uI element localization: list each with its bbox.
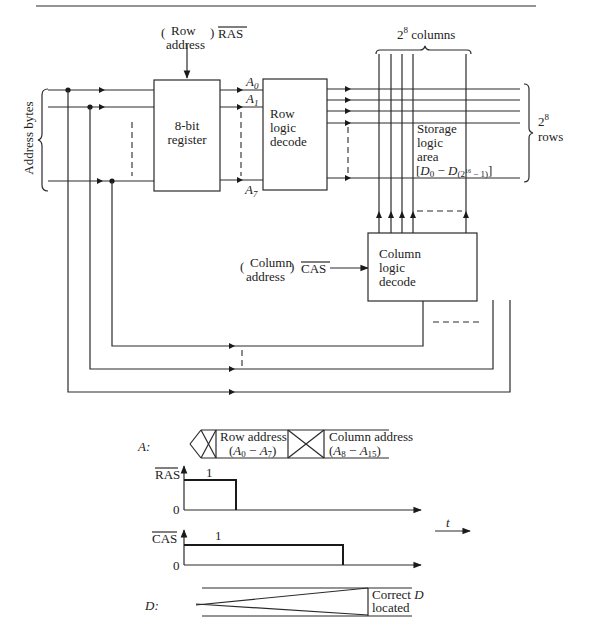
output-a0-label: A0 [245,74,259,91]
svg-text:Storage: Storage [417,121,457,136]
storage-range-label: [D0 − D(216 − 1)] [416,163,492,179]
column-address-label-2: address [246,269,285,284]
output-a7-label: A7 [244,182,258,199]
row-decoder-label-1: Row [270,106,295,121]
cas-signal-label: CAS [152,531,177,546]
timing-diagram: A: Row address (A0 − A7) Column address … [137,429,470,616]
row-address-label-1: Row [171,23,196,38]
rows-label-text: rows [538,129,563,144]
data-result-label-2: located [372,600,410,615]
register-label-1: 8-bit [175,118,200,133]
column-address-phase-range: (A8 − A15) [329,443,381,459]
svg-text:(: ( [161,25,165,40]
cas-label: CAS [301,261,326,276]
row-address-phase-range: (A0 − A7) [229,443,276,459]
svg-text:(: ( [240,259,244,274]
column-decoder-label-1: Column [379,246,421,261]
columns-label: 28 columns [397,25,455,42]
output-a1-label: A1 [245,91,258,108]
ras-low-label: 0 [173,502,180,517]
column-decoder-label-2: logic [379,260,405,275]
address-bytes-brace [38,89,48,191]
svg-text:area: area [417,149,439,164]
ras-high-label: 1 [206,465,213,480]
cas-waveform [184,545,343,565]
column-address-phase-label: Column address [329,429,413,444]
row-address-phase-label: Row address [220,429,287,444]
row-decoder-label-3: decode [270,134,307,149]
address-bytes-label: Address bytes [21,101,36,174]
cas-high-label: 1 [215,528,222,543]
register-label-2: register [168,132,208,147]
columns-brace [376,46,471,54]
time-axis-label: t [446,515,450,530]
ras-signal-label: RAS [155,467,180,482]
rows-brace [524,84,533,182]
cas-low-label: 0 [173,558,180,573]
ras-label: RAS [218,26,243,41]
address-signal-label: A: [137,439,150,454]
svg-text:): ) [290,259,294,274]
svg-text:logic: logic [417,135,443,150]
data-signal-label: D: [144,598,159,613]
storage-area-label: Storage logic area [D0 − D(216 − 1)] [414,121,492,179]
dram-diagram-canvas: Address bytes ( Row address ) RAS RAS [0,0,594,631]
column-address-label-1: Column [250,255,292,270]
row-decoder-label-2: logic [270,120,296,135]
block-diagram: Address bytes ( Row address ) RAS RAS [21,23,563,395]
rows-label-base: 28 [538,112,550,129]
ras-waveform [184,480,236,510]
svg-text:): ) [210,25,214,40]
column-decoder-label-3: decode [379,274,416,289]
row-address-label-2: address [166,37,205,52]
